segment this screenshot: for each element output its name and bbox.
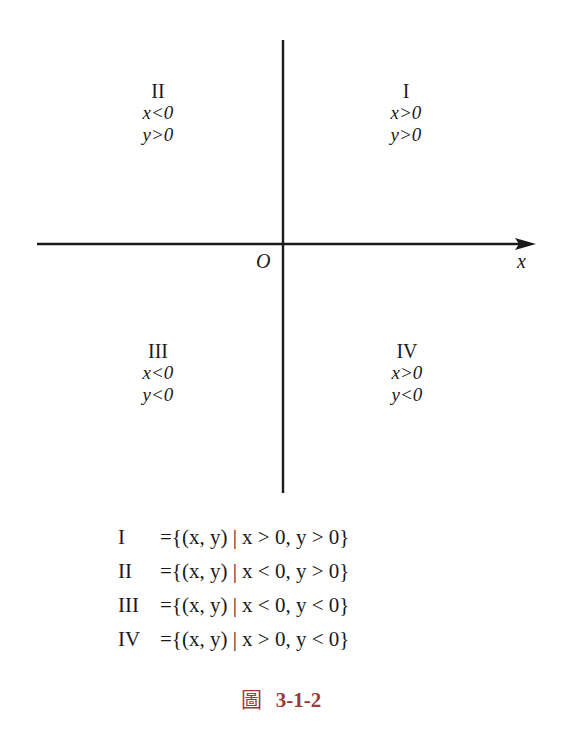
quadrant-roman: I bbox=[356, 80, 456, 102]
quadrant-roman: II bbox=[108, 80, 208, 102]
set-definition-row: I ={(x, y) | x > 0, y > 0} bbox=[118, 520, 349, 554]
set-expression: ={(x, y) | x < 0, y > 0} bbox=[160, 554, 349, 588]
set-roman: I bbox=[118, 520, 160, 554]
quadrant-set-definitions: I ={(x, y) | x > 0, y > 0} II ={(x, y) |… bbox=[118, 520, 349, 656]
quadrant-x-condition: x<0 bbox=[108, 102, 208, 124]
quadrant-roman: III bbox=[108, 340, 208, 362]
quadrant-I-label: I x>0 y>0 bbox=[356, 80, 456, 146]
quadrant-II-label: II x<0 y>0 bbox=[108, 80, 208, 146]
set-expression: ={(x, y) | x > 0, y > 0} bbox=[160, 520, 349, 554]
set-definition-row: III ={(x, y) | x < 0, y < 0} bbox=[118, 588, 349, 622]
quadrant-y-condition: y<0 bbox=[357, 384, 457, 406]
set-definition-row: IV ={(x, y) | x > 0, y < 0} bbox=[118, 622, 349, 656]
set-roman: II bbox=[118, 554, 160, 588]
figure-caption: 圖3-1-2 bbox=[0, 683, 562, 713]
caption-figure-glyph: 圖 bbox=[241, 688, 262, 712]
quadrant-x-condition: x>0 bbox=[356, 102, 456, 124]
quadrant-x-condition: x>0 bbox=[357, 362, 457, 384]
quadrant-y-condition: y>0 bbox=[356, 124, 456, 146]
set-expression: ={(x, y) | x < 0, y < 0} bbox=[160, 588, 349, 622]
x-axis-label: x bbox=[517, 250, 526, 273]
quadrant-IV-label: IV x>0 y<0 bbox=[357, 340, 457, 406]
set-definition-row: II ={(x, y) | x < 0, y > 0} bbox=[118, 554, 349, 588]
set-roman: III bbox=[118, 588, 160, 622]
quadrant-x-condition: x<0 bbox=[108, 362, 208, 384]
quadrant-roman: IV bbox=[357, 340, 457, 362]
set-roman: IV bbox=[118, 622, 160, 656]
quadrant-III-label: III x<0 y<0 bbox=[108, 340, 208, 406]
set-expression: ={(x, y) | x > 0, y < 0} bbox=[160, 622, 349, 656]
caption-number: 3-1-2 bbox=[276, 688, 322, 712]
quadrant-y-condition: y>0 bbox=[108, 124, 208, 146]
quadrant-y-condition: y<0 bbox=[108, 384, 208, 406]
origin-label: O bbox=[256, 250, 270, 273]
